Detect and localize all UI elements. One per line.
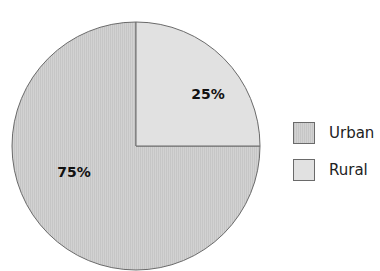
legend-swatch-urban <box>293 122 315 144</box>
legend-swatch-rural <box>293 159 315 181</box>
slice-rural <box>136 22 260 146</box>
legend-label: Rural <box>329 161 368 179</box>
legend: Urban Rural <box>293 122 374 196</box>
legend-label: Urban <box>329 124 374 142</box>
legend-item-urban: Urban <box>293 122 374 144</box>
legend-item-rural: Rural <box>293 159 374 181</box>
slice-label-rural: 25% <box>191 86 225 102</box>
slice-label-urban: 75% <box>57 164 91 180</box>
